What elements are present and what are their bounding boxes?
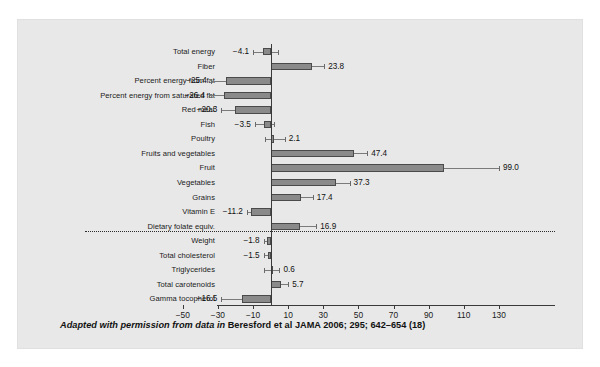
bar-value-label: 0.6 [283, 262, 294, 278]
error-bar-cap [221, 297, 222, 302]
category-label: Triglycerides [18, 262, 215, 278]
bar-value-label: 17.4 [317, 190, 333, 206]
chart-row: Fiber23.8 [18, 59, 582, 75]
chart-row: Red meat−20.3 [18, 102, 582, 118]
caption-lead: Adapted with permission from data in [60, 320, 228, 330]
chart-row: Percent energy from fat−25.4 [18, 73, 582, 89]
bar[interactable] [263, 48, 270, 55]
error-bar-cap [279, 268, 280, 273]
chart-row: Poultry2.1 [18, 131, 582, 147]
chart-row: Fish−3.5 [18, 117, 582, 133]
category-label: Poultry [18, 131, 215, 147]
chart-row: Grains17.4 [18, 190, 582, 206]
x-tick-label: 70 [374, 310, 414, 320]
bar[interactable] [224, 92, 270, 99]
chart-row: Vitamin E−11.2 [18, 204, 582, 220]
x-tick-label: −10 [233, 310, 273, 320]
bar-value-label: −3.5 [221, 117, 251, 133]
x-tick-mark [183, 305, 184, 309]
category-label: Red meat [18, 102, 215, 118]
chart-panel: Total energy−4.1Fiber23.8Percent energy … [18, 20, 582, 348]
category-label: Total cholesterol [18, 248, 215, 264]
category-label: Fruits and vegetables [18, 146, 215, 162]
error-bar [265, 139, 284, 140]
x-tick-label: −50 [163, 310, 203, 320]
bar-value-label: −1.8 [230, 233, 260, 249]
x-tick-label: 10 [268, 310, 308, 320]
x-tick-mark [499, 305, 500, 309]
chart-row: Triglycerides0.6 [18, 262, 582, 278]
error-bar-cap [278, 50, 279, 55]
x-tick-mark [464, 305, 465, 309]
error-bar-cap [367, 151, 368, 156]
error-bar-cap [274, 122, 275, 127]
category-label: Vegetables [18, 175, 215, 191]
error-bar-cap [350, 181, 351, 186]
chart-row: Percent energy from saturated fat−26.4 [18, 88, 582, 104]
bar[interactable] [271, 164, 445, 171]
error-bar-cap [211, 79, 212, 84]
x-tick-label: 90 [409, 310, 449, 320]
bar-value-label: 16.9 [320, 219, 336, 235]
x-tick-mark [218, 305, 219, 309]
category-label: Weight [18, 233, 215, 249]
x-tick-label: 50 [338, 310, 378, 320]
chart-row: Fruits and vegetables47.4 [18, 146, 582, 162]
error-bar-cap [264, 239, 265, 244]
bar[interactable] [271, 223, 301, 230]
bar[interactable] [226, 77, 271, 84]
error-bar-cap [324, 64, 325, 69]
category-label: Grains [18, 190, 215, 206]
bar[interactable] [271, 281, 281, 288]
bar[interactable] [271, 150, 354, 157]
category-label: Total energy [18, 44, 215, 60]
category-label: Fiber [18, 59, 215, 75]
x-tick-label: 110 [444, 310, 484, 320]
x-tick-mark [323, 305, 324, 309]
x-tick-label: 30 [303, 310, 343, 320]
category-label: Total carotenoids [18, 277, 215, 293]
bar[interactable] [271, 179, 336, 186]
chart-row: Total cholesterol−1.5 [18, 248, 582, 264]
error-bar-cap [255, 122, 256, 127]
x-tick-mark [253, 305, 254, 309]
bar-value-label: −16.5 [187, 291, 217, 307]
bar[interactable] [251, 208, 271, 215]
error-bar-cap [265, 137, 266, 142]
category-label: Fish [18, 117, 215, 133]
x-axis-line [217, 305, 555, 306]
error-bar-cap [221, 108, 222, 113]
bar-value-label: −20.3 [187, 102, 217, 118]
bar-value-label: 2.1 [289, 131, 300, 147]
bar[interactable] [235, 106, 271, 113]
x-tick-label: −30 [198, 310, 238, 320]
bar-value-label: 5.7 [292, 277, 303, 293]
zero-reference-line [271, 44, 272, 306]
category-label: Dietary folate equiv. [18, 219, 215, 235]
x-tick-label: 130 [479, 310, 519, 320]
bar[interactable] [242, 295, 271, 302]
error-bar-cap [285, 137, 286, 142]
error-bar-cap [499, 166, 500, 171]
bar[interactable] [271, 63, 313, 70]
bar-value-label: 23.8 [328, 59, 344, 75]
x-tick-mark [429, 305, 430, 309]
bar-value-label: −1.5 [230, 248, 260, 264]
error-bar-cap [264, 268, 265, 273]
figure-root: Total energy−4.1Fiber23.8Percent energy … [0, 0, 600, 367]
figure-caption: Adapted with permission from data in Ber… [60, 320, 425, 330]
error-bar-cap [247, 210, 248, 215]
bar[interactable] [271, 194, 302, 201]
error-bar-cap [316, 224, 317, 229]
category-label: Fruit [18, 160, 215, 176]
chart-row: Vegetables37.3 [18, 175, 582, 191]
error-bar-cap [209, 93, 210, 98]
category-label: Gamma tocopherol [18, 291, 215, 307]
chart-row: Weight−1.8 [18, 233, 582, 249]
bar-value-label: 99.0 [503, 160, 519, 176]
chart-row: Total carotenoids5.7 [18, 277, 582, 293]
bar-value-label: 47.4 [371, 146, 387, 162]
x-tick-mark [358, 305, 359, 309]
bar-value-label: −11.2 [213, 204, 243, 220]
bar-value-label: 37.3 [354, 175, 370, 191]
